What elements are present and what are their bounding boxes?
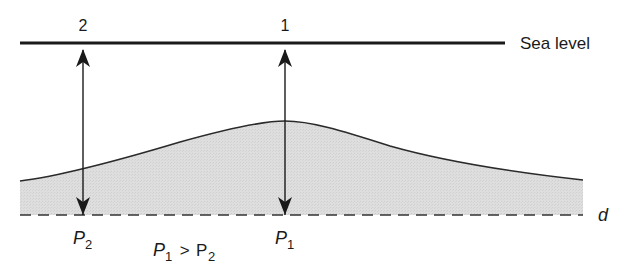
comparison-left-symbol: P — [153, 240, 165, 260]
pressure-label-p2: P 2 — [73, 228, 92, 252]
sea-level-label: Sea level — [520, 34, 590, 53]
point-label-2: 2 — [79, 17, 88, 34]
pressure-subscript: 2 — [85, 237, 92, 252]
comparison-left-subscript: 1 — [165, 249, 172, 264]
pressure-label-p1: P 1 — [275, 228, 294, 252]
comparison-right-symbol: P — [196, 241, 207, 260]
datum-label: d — [598, 205, 609, 225]
point-label-1: 1 — [281, 17, 290, 34]
pressure-symbol: P — [275, 228, 287, 248]
pressure-subscript: 1 — [287, 237, 294, 252]
comparison-right-subscript: 2 — [208, 249, 215, 264]
comparison-operator: > — [175, 241, 194, 260]
pressure-symbol: P — [73, 228, 85, 248]
pressure-comparison: P 1 > P 2 — [153, 240, 215, 264]
diagram-canvas: 2 1 Sea level d P 2 P 1 P 1 > P 2 — [0, 0, 624, 276]
